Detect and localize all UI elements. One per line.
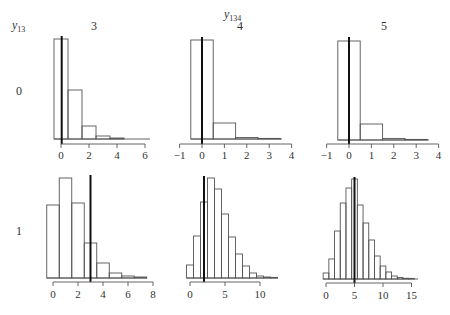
- x-tick-label: 2: [391, 149, 397, 161]
- histogram-bar: [187, 265, 194, 278]
- histogram-bar: [68, 90, 82, 139]
- histogram-bar: [194, 236, 201, 278]
- x-tick-label: 10: [378, 289, 390, 301]
- histogram-bar: [386, 272, 392, 279]
- histogram-bar: [335, 231, 341, 279]
- x-tick-label: 3: [413, 149, 419, 161]
- column-labels: 345: [91, 19, 387, 33]
- histogram-bar: [222, 214, 229, 278]
- x-axis: 02468: [50, 282, 156, 300]
- histogram-bar: [380, 266, 386, 279]
- histogram-bar: [360, 124, 382, 140]
- histogram-bar: [374, 256, 380, 279]
- x-axis: −101234: [174, 144, 295, 161]
- x-tick-label: 0: [187, 288, 193, 300]
- histogram-bar: [236, 254, 243, 278]
- histogram-panel: 051015: [323, 177, 418, 301]
- x-tick-label: 2: [75, 288, 81, 300]
- x-tick-label: 2: [86, 149, 92, 161]
- histogram-bar: [229, 237, 236, 278]
- x-tick-label: 8: [150, 288, 156, 300]
- histogram-bar: [329, 259, 335, 279]
- histogram-bar: [250, 273, 257, 278]
- histogram-panel: 0246: [54, 36, 150, 161]
- histogram-bar: [363, 223, 369, 279]
- x-tick-label: 4: [289, 149, 295, 161]
- histogram-bar: [346, 188, 352, 279]
- histogram-bar: [340, 203, 346, 279]
- histogram-panel: 02468: [47, 175, 157, 300]
- x-tick-label: 0: [346, 149, 352, 161]
- x-tick-label: 3: [266, 149, 272, 161]
- column-label: 3: [91, 19, 97, 33]
- x-tick-label: 1: [222, 149, 228, 161]
- histogram-bar: [215, 189, 222, 278]
- histogram-panel: −101234: [321, 37, 442, 161]
- histogram-bar: [82, 126, 96, 139]
- x-tick-label: 2: [244, 149, 250, 161]
- histogram-bar: [72, 203, 85, 278]
- column-label: 5: [381, 19, 387, 33]
- histogram-bar: [59, 178, 72, 278]
- histogram-bar: [47, 205, 60, 278]
- histogram-bar: [357, 205, 363, 279]
- x-tick-label: 5: [222, 288, 228, 300]
- x-tick-label: 0: [323, 289, 329, 301]
- x-tick-label: 10: [255, 288, 267, 300]
- histogram-bar: [213, 123, 235, 139]
- x-tick-label: 4: [100, 288, 106, 300]
- x-tick-label: −1: [174, 149, 186, 161]
- row-label: 1: [16, 224, 22, 238]
- x-axis: −101234: [321, 144, 442, 161]
- row-label: 0: [16, 84, 22, 98]
- histogram-bar: [369, 240, 375, 279]
- histogram-bar: [323, 273, 329, 279]
- x-axis: 0246: [58, 144, 148, 161]
- row-variable-label: y13: [11, 18, 25, 34]
- panels: 0246−101234−101234024680510051015: [47, 36, 442, 301]
- x-tick-label: 6: [125, 288, 131, 300]
- x-axis: 0510: [187, 282, 266, 300]
- x-tick-label: 4: [436, 149, 442, 161]
- x-axis: 051015: [323, 283, 417, 301]
- histogram-bar: [208, 178, 215, 278]
- histogram-bar: [109, 273, 122, 278]
- histogram-panel: 0510: [187, 176, 279, 300]
- x-tick-label: 0: [58, 149, 64, 161]
- x-tick-label: 5: [352, 289, 358, 301]
- histogram-bar: [243, 266, 250, 278]
- histogram-bar: [97, 263, 110, 278]
- x-tick-label: 6: [142, 149, 148, 161]
- x-tick-label: 15: [406, 289, 418, 301]
- row-header: y13: [11, 18, 25, 34]
- x-tick-label: −1: [321, 149, 333, 161]
- row-labels: 01: [16, 84, 22, 238]
- x-tick-label: 0: [50, 288, 56, 300]
- column-label: 4: [237, 19, 243, 33]
- histogram-panel: −101234: [174, 37, 295, 161]
- x-tick-label: 1: [369, 149, 375, 161]
- histogram-grid-chart: y134 y13 345 01 0246−101234−101234024680…: [0, 0, 450, 315]
- x-tick-label: 4: [114, 149, 120, 161]
- x-tick-label: 0: [199, 149, 205, 161]
